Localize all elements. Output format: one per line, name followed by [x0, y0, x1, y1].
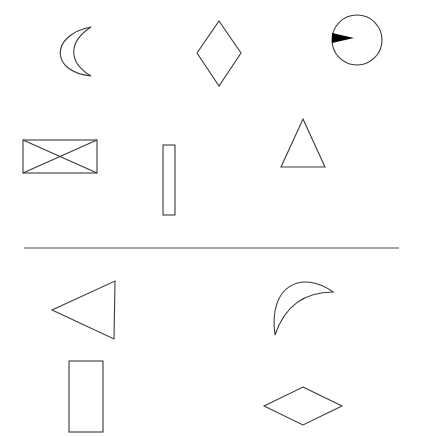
crescent-left-shape: [60, 27, 91, 76]
triangle-left-shape: [52, 281, 115, 339]
bottom-panel: [52, 281, 342, 432]
circle-with-pointer-shape: [332, 15, 382, 65]
triangle-up-shape: [281, 119, 325, 167]
pointer-wedge-icon: [332, 33, 354, 43]
diamond-wide-shape: [264, 387, 342, 425]
diamond-tall-shape: [197, 21, 241, 86]
rect-crossed-shape: [23, 140, 97, 173]
crescent-rotated-shape: [274, 282, 333, 335]
rect-thin-shape: [163, 145, 175, 215]
rect-tall-shape: [69, 361, 103, 432]
shape-diagram: [0, 0, 428, 437]
top-panel: [23, 15, 382, 215]
